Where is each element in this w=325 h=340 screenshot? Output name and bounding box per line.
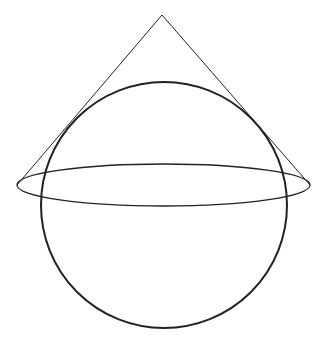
diagram-canvas bbox=[0, 0, 325, 340]
background bbox=[0, 0, 325, 340]
cone-sphere-diagram bbox=[0, 0, 325, 340]
